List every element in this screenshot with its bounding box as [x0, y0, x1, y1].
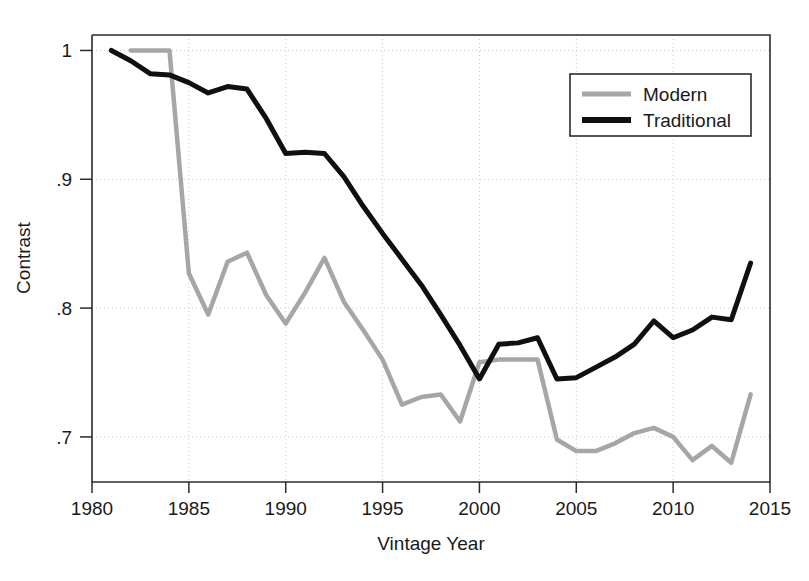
x-tick-label: 1995 [361, 498, 403, 519]
x-tick-label: 2010 [652, 498, 694, 519]
x-tick-label: 2000 [458, 498, 500, 519]
y-axis-title: Contrast [13, 221, 34, 294]
x-tick-label: 2005 [555, 498, 597, 519]
y-tick-label: .8 [56, 298, 72, 319]
x-axis-ticks: 19801985199019952000200520102015 [71, 482, 791, 519]
x-tick-label: 1985 [168, 498, 210, 519]
line-chart-svg: 19801985199019952000200520102015 1.9.8.7… [0, 0, 809, 581]
legend-label-traditional: Traditional [643, 110, 731, 131]
legend: Modern Traditional [570, 74, 751, 136]
y-tick-label: .7 [56, 427, 72, 448]
chart-figure: 19801985199019952000200520102015 1.9.8.7… [0, 0, 809, 581]
y-axis-ticks: 1.9.8.7 [56, 40, 92, 447]
x-tick-label: 2015 [749, 498, 791, 519]
x-axis-title: Vintage Year [377, 533, 485, 554]
x-tick-label: 1980 [71, 498, 113, 519]
legend-label-modern: Modern [643, 84, 707, 105]
x-tick-label: 1990 [265, 498, 307, 519]
y-tick-label: .9 [56, 169, 72, 190]
y-tick-label: 1 [61, 40, 72, 61]
